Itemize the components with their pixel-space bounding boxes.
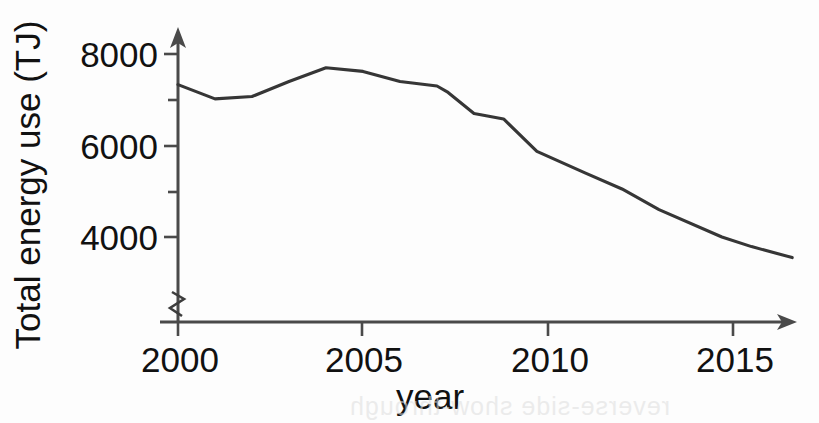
screenshot-root: 8000 6000 4000 2000 2005 2010 2015 Total… [0, 0, 819, 423]
x-axis [160, 314, 797, 336]
y-axis-break-icon [170, 292, 184, 316]
x-tick-label-2015: 2015 [696, 340, 774, 379]
y-axis [164, 27, 186, 322]
chart-svg: 8000 6000 4000 2000 2005 2010 2015 Total… [0, 0, 819, 423]
y-tick-label-6000: 6000 [80, 127, 158, 166]
y-tick-label-8000: 8000 [80, 35, 158, 74]
y-axis-title: Total energy use (TJ) [8, 21, 47, 350]
x-tick-label-2000: 2000 [141, 340, 219, 379]
x-tick-label-2005: 2005 [325, 340, 403, 379]
y-tick-label-4000: 4000 [80, 218, 158, 257]
data-series-line [178, 68, 792, 258]
scan-showthrough-artifact: reverse-side show-through [150, 392, 670, 421]
line-chart-figure: 8000 6000 4000 2000 2005 2010 2015 Total… [0, 0, 819, 423]
x-tick-label-2010: 2010 [511, 340, 589, 379]
